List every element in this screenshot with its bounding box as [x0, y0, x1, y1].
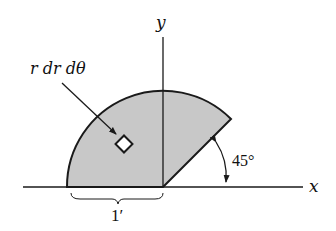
radius-label: 1′	[111, 206, 123, 225]
radius-brace	[71, 193, 163, 204]
x-axis-label: x	[309, 176, 319, 196]
polar-region-diagram: x y r dr dθ 45° 1′	[0, 0, 336, 231]
y-axis-label: y	[155, 12, 166, 32]
angle-arc	[216, 142, 226, 182]
shaded-sector	[67, 91, 231, 187]
element-label: r dr dθ	[30, 59, 86, 78]
angle-label: 45°	[232, 152, 254, 169]
